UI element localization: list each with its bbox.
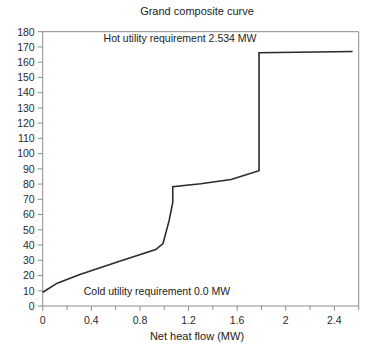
y-tick-label: 20: [23, 269, 35, 281]
chart-title: Grand composite curve: [140, 5, 254, 17]
x-axis-ticks: 00.40.81.21.622.4: [40, 306, 359, 326]
y-tick-label: 10: [23, 285, 35, 297]
y-tick-label: 120: [17, 117, 35, 129]
y-tick-label: 60: [23, 208, 35, 220]
y-tick-label: 140: [17, 86, 35, 98]
y-tick-label: 0: [29, 300, 35, 312]
x-tick-label: 0.8: [133, 314, 148, 326]
x-tick-label: 0: [40, 314, 46, 326]
y-tick-label: 30: [23, 254, 35, 266]
data-series-line: [43, 52, 353, 293]
hot-utility-annotation: Hot utility requirement 2.534 MW: [104, 32, 257, 44]
x-tick-label: 2.4: [327, 314, 342, 326]
y-tick-label: 180: [17, 26, 35, 38]
cold-utility-annotation: Cold utility requirement 0.0 MW: [84, 285, 231, 297]
y-tick-label: 40: [23, 239, 35, 251]
y-axis-ticks: 0102030405060708090100110120130140150160…: [17, 26, 43, 312]
x-axis-title: Net heat flow (MW): [150, 330, 244, 342]
y-tick-label: 170: [17, 41, 35, 53]
grand-composite-curve-chart: Grand composite curve 00.40.81.21.622.4 …: [0, 0, 375, 351]
chart-annotations: Hot utility requirement 2.534 MWCold uti…: [84, 32, 257, 298]
data-series-group: [43, 52, 353, 293]
chart-title-group: Grand composite curve: [140, 5, 254, 17]
y-tick-label: 130: [17, 102, 35, 114]
plot-frame: [43, 32, 359, 306]
x-tick-label: 1.2: [181, 314, 196, 326]
y-tick-label: 160: [17, 56, 35, 68]
plot-border: [43, 32, 359, 306]
x-axis-title-group: Net heat flow (MW): [150, 330, 244, 342]
y-tick-label: 50: [23, 224, 35, 236]
y-tick-label: 150: [17, 71, 35, 83]
y-tick-label: 110: [18, 132, 35, 144]
y-tick-label: 70: [23, 193, 35, 205]
x-tick-label: 2: [283, 314, 289, 326]
y-tick-label: 100: [17, 147, 35, 159]
y-tick-label: 90: [23, 163, 35, 175]
x-tick-label: 1.6: [230, 314, 245, 326]
chart-page: Grand composite curve 00.40.81.21.622.4 …: [0, 0, 375, 351]
x-tick-label: 0.4: [84, 314, 99, 326]
y-tick-label: 80: [23, 178, 35, 190]
